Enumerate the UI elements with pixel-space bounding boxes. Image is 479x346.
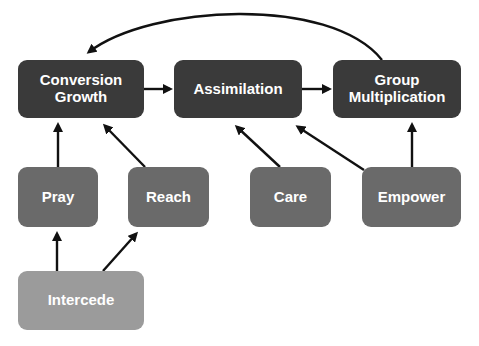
node-label-line2: Multiplication: [349, 89, 446, 106]
node-reach: Reach: [128, 167, 209, 227]
node-label: Reach: [146, 189, 191, 206]
node-label: Pray: [42, 189, 75, 206]
node-label-line2: Growth: [40, 89, 123, 106]
node-pray: Pray: [18, 167, 98, 227]
arrow-group-multiplication-to-conversion-growth: [89, 14, 382, 60]
node-label: Intercede: [48, 292, 115, 309]
node-intercede: Intercede: [18, 271, 144, 330]
arrow-reach-to-conversion-growth: [105, 126, 145, 167]
node-label-line1: Group: [349, 72, 446, 89]
arrow-empower-to-assimilation: [298, 127, 364, 170]
node-empower: Empower: [362, 167, 461, 227]
node-care: Care: [250, 167, 331, 227]
node-label: Care: [274, 189, 307, 206]
node-conversion-growth: Conversion Growth: [18, 60, 144, 118]
node-label-line1: Conversion: [40, 72, 123, 89]
node-label: Empower: [378, 189, 446, 206]
arrow-intercede-to-reach: [103, 234, 136, 271]
node-label: Assimilation: [193, 81, 282, 98]
node-group-multiplication: Group Multiplication: [333, 60, 461, 118]
node-assimilation: Assimilation: [174, 60, 302, 118]
arrow-care-to-assimilation: [237, 127, 280, 167]
